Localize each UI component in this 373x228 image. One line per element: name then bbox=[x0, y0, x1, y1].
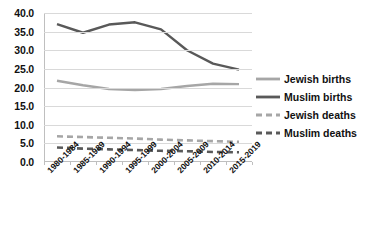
gridline bbox=[44, 13, 252, 14]
y-axis-tick-label: 20.0 bbox=[14, 82, 34, 94]
y-axis-tick-label: 40.0 bbox=[14, 7, 34, 19]
y-axis-tick-label: 5.0 bbox=[20, 137, 34, 149]
y-axis: 40.035.030.025.020.015.010.05.00.0 bbox=[0, 0, 38, 228]
legend-swatch-icon bbox=[256, 92, 280, 102]
legend-label: Muslim births bbox=[284, 91, 352, 103]
series-line bbox=[57, 22, 239, 69]
legend-item[interactable]: Jewish deaths bbox=[256, 106, 373, 124]
line-chart: 40.035.030.025.020.015.010.05.00.0 1980-… bbox=[0, 0, 373, 228]
x-axis: 1980-19841985-19891990-19941995-19992000… bbox=[44, 162, 252, 228]
gridline bbox=[44, 32, 252, 33]
legend-swatch-icon bbox=[256, 110, 280, 120]
chart-legend: Jewish birthsMuslim birthsJewish deathsM… bbox=[256, 70, 373, 142]
legend-swatch-icon bbox=[256, 74, 280, 84]
series-line bbox=[57, 81, 239, 90]
legend-label: Muslim deaths bbox=[284, 127, 357, 139]
legend-swatch-icon bbox=[256, 128, 280, 138]
legend-item[interactable]: Muslim births bbox=[256, 88, 373, 106]
gridline bbox=[44, 69, 252, 70]
legend-label: Jewish births bbox=[284, 73, 351, 85]
y-axis-tick-label: 30.0 bbox=[14, 44, 34, 56]
y-axis-tick-label: 25.0 bbox=[14, 63, 34, 75]
gridline bbox=[44, 88, 252, 89]
gridline bbox=[44, 125, 252, 126]
gridline bbox=[44, 50, 252, 51]
y-axis-tick-label: 0.0 bbox=[20, 156, 34, 168]
x-axis-tick-mark bbox=[252, 162, 253, 165]
legend-item[interactable]: Jewish births bbox=[256, 70, 373, 88]
legend-item[interactable]: Muslim deaths bbox=[256, 124, 373, 142]
y-axis-tick-label: 35.0 bbox=[14, 26, 34, 38]
y-axis-tick-label: 15.0 bbox=[14, 100, 34, 112]
legend-label: Jewish deaths bbox=[284, 109, 356, 121]
y-axis-tick-label: 10.0 bbox=[14, 119, 34, 131]
gridline bbox=[44, 106, 252, 107]
